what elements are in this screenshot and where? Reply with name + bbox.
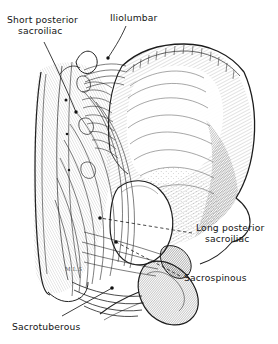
anchor-iliolumbar <box>106 56 109 59</box>
label-sacrotuberous-line1: Sacrotuberous <box>12 321 80 332</box>
label-sacrotuberous: Sacrotuberous <box>12 321 80 332</box>
pelvis-illustration <box>0 0 278 344</box>
label-long-posterior-sacroiliac: Long posterior sacroiliac <box>196 222 264 244</box>
anatomical-figure: Short posterior sacroiliac Iliolumbar Lo… <box>0 0 278 344</box>
label-iliolumbar-line1: Iliolumbar <box>110 12 158 23</box>
label-sacrospinous-line1: Sacrospinous <box>184 272 247 283</box>
label-long-posterior-sacroiliac-line1: Long posterior <box>196 222 264 233</box>
label-long-posterior-sacroiliac-line2: sacroiliac <box>196 233 264 244</box>
label-short-posterior-sacroiliac: Short posterior sacroiliac <box>7 14 78 36</box>
sacrotuberous-band <box>72 282 144 317</box>
anchor-long-posterior-sacroiliac <box>98 216 102 220</box>
label-short-posterior-sacroiliac-line1: Short posterior <box>7 14 78 25</box>
label-iliolumbar: Iliolumbar <box>110 12 158 23</box>
artist-signature: M.L.S <box>65 266 82 272</box>
anchor-sacrospinous <box>114 240 118 244</box>
label-sacrospinous: Sacrospinous <box>184 272 247 283</box>
anchor-sacrotuberous <box>110 286 114 290</box>
anchor-short-posterior-sacroiliac <box>74 110 77 113</box>
ischial-tuberosity <box>100 252 210 332</box>
label-short-posterior-sacroiliac-line2: sacroiliac <box>7 25 78 36</box>
leader-iliolumbar <box>108 26 126 58</box>
